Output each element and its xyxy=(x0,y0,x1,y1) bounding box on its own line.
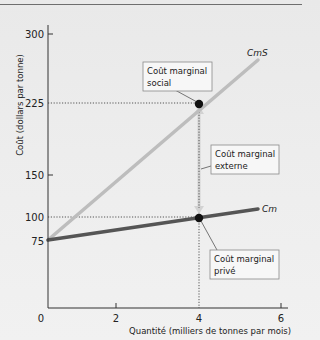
x-axis-title: Quantité (milliers de tonnes par mois) xyxy=(129,326,291,336)
y-axis-title: Coût (dollars par tonne) xyxy=(15,54,25,156)
leader-prive xyxy=(201,221,217,250)
cms-label: CmS xyxy=(247,48,268,58)
y-tick-label-100: 100 xyxy=(25,212,44,223)
note-prive: Coût marginal privé xyxy=(210,250,279,279)
y-ticks xyxy=(48,34,53,175)
y-tick-label-75: 75 xyxy=(31,236,44,247)
note-externe: Coût marginal externe xyxy=(211,145,279,174)
note-prive-line2: privé xyxy=(214,266,236,276)
leader-externe xyxy=(201,166,211,169)
x-tick-label-6: 6 xyxy=(278,313,284,324)
note-prive-line1: Coût marginal xyxy=(214,254,274,264)
note-externe-line1: Coût marginal xyxy=(215,149,275,159)
origin-label: 0 xyxy=(38,313,44,324)
y-tick-label-300: 300 xyxy=(25,29,44,40)
x-tick-label-2: 2 xyxy=(113,313,119,324)
note-social-line1: Coût marginal xyxy=(147,66,207,76)
note-externe-line2: externe xyxy=(215,161,248,171)
y-tick-label-225: 225 xyxy=(25,98,44,109)
chart-canvas: 300 225 150 100 75 0 2 4 6 Coût (dollars… xyxy=(0,0,302,340)
note-social-line2: social xyxy=(147,78,171,88)
note-social: Coût marginal social xyxy=(143,62,212,91)
leader-social xyxy=(175,90,197,102)
point-private-cost xyxy=(195,214,203,222)
cm-label: Cm xyxy=(262,204,277,214)
point-social-cost xyxy=(195,100,203,108)
x-tick-label-4: 4 xyxy=(196,313,202,324)
y-tick-label-150: 150 xyxy=(25,170,44,181)
external-cost-arrow xyxy=(194,106,204,214)
